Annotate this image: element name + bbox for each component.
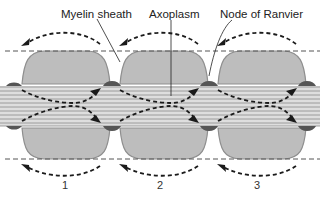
- label-axoplasm: Axoplasm: [149, 8, 200, 20]
- segment-number-1: 1: [62, 179, 68, 191]
- segment-number-3: 3: [254, 179, 260, 191]
- myelinated-axon-diagram: [0, 0, 320, 198]
- myelin-sheath-bottom: [22, 128, 306, 159]
- external-current-arrows-bottom: [26, 166, 296, 176]
- external-current-arrows-top: [26, 33, 296, 44]
- label-node-of-ranvier: Node of Ranvier: [220, 8, 303, 20]
- segment-number-2: 2: [157, 179, 163, 191]
- label-myelin-sheath: Myelin sheath: [61, 8, 132, 20]
- myelin-sheath-top: [22, 51, 306, 84]
